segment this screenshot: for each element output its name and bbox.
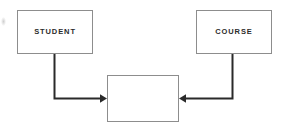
relationship-box[interactable] bbox=[107, 75, 179, 122]
scan-artifact-smudge bbox=[1, 17, 6, 26]
entity-label-course: COURSE bbox=[215, 28, 253, 36]
arrowhead-icon-course bbox=[179, 94, 186, 103]
entity-label-student: STUDENT bbox=[34, 28, 76, 36]
entity-box-course[interactable]: COURSE bbox=[196, 10, 272, 54]
connector-line-course bbox=[186, 54, 233, 99]
entity-box-student[interactable]: STUDENT bbox=[17, 10, 93, 54]
arrowhead-icon-student bbox=[100, 94, 107, 103]
er-diagram-canvas: STUDENT COURSE bbox=[0, 0, 283, 131]
connector-student-to-relationship bbox=[55, 54, 108, 103]
connector-line-student bbox=[55, 54, 101, 99]
connector-course-to-relationship bbox=[179, 54, 233, 103]
